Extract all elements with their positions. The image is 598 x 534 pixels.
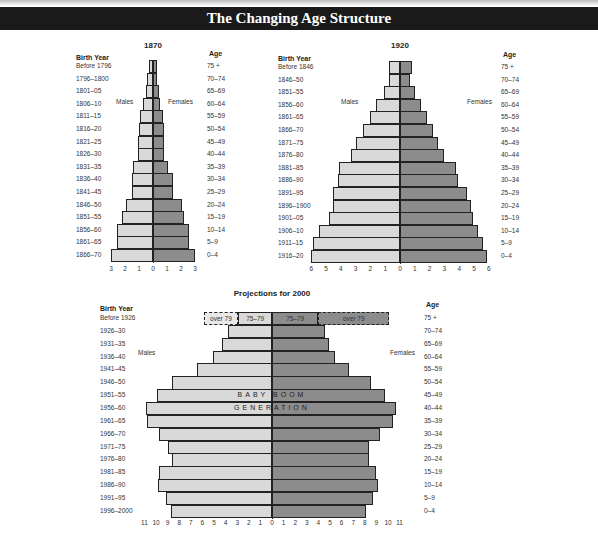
males-label: Males [116,98,133,105]
page-title: The Changing Age Structure [0,7,598,30]
segment-label: over 79 [318,315,389,322]
bar-female [400,237,483,250]
birth-year-label: Before 1926 [100,314,135,321]
bar-male [132,173,153,186]
birth-year-label: 1871–75 [278,139,303,146]
age-label: 15–19 [501,214,519,221]
bar-male [117,224,153,237]
birth-year-label: 1986–90 [100,481,125,488]
bar-female [272,505,366,518]
birth-year-label: 1861–65 [76,238,101,245]
birth-year-label: 1951–55 [100,391,125,398]
x-tick-label: 1 [379,265,391,272]
bar-female [400,74,410,87]
bar-female [400,200,471,213]
x-tick-label: 1 [133,265,145,272]
age-label: 25–29 [501,189,519,196]
age-label: 5–9 [207,238,218,245]
x-tick-label: 10 [382,519,394,526]
age-label: 5–9 [424,494,435,501]
center-axis [272,312,273,519]
x-tick-label: 2 [243,519,255,526]
age-label: 30–34 [207,175,225,182]
age-label: 50–54 [501,126,519,133]
bar-female [272,428,380,441]
bar-female [272,325,325,338]
birth-year-label: 1806–10 [76,100,101,107]
x-tick-label: 1 [409,265,421,272]
age-label: 5–9 [501,239,512,246]
birth-year-label: 1841–45 [76,188,101,195]
x-tick-label: 3 [105,265,117,272]
birth-year-label: 1991–95 [100,494,125,501]
birth-year-label: 1946–50 [100,378,125,385]
age-label: 30–34 [501,176,519,183]
x-tick-label: 2 [119,265,131,272]
age-header: Age [503,51,516,58]
segment-label: 75–79 [272,315,318,322]
bar-male [370,111,400,124]
x-tick-label: 2 [424,265,436,272]
age-header: Age [426,301,439,308]
age-label: 40–44 [501,151,519,158]
bar-female [400,149,444,162]
bar-male [338,174,400,187]
bar-male [140,110,153,123]
bar-female [153,85,159,98]
age-label: 45–49 [501,139,519,146]
birth-year-label: 1811–15 [76,112,101,119]
age-label: 55–59 [501,113,519,120]
age-label: 0–4 [424,507,435,514]
bar-male [389,74,400,87]
birth-year-header: Birth Year [76,54,109,61]
birth-year-label: 1876–80 [278,151,303,158]
chart-title: Projections for 2000 [192,289,352,298]
age-label: 0–4 [207,251,218,258]
bar-female [400,174,458,187]
birth-year-label: 1971–75 [100,443,125,450]
age-label: 75 + [207,62,220,69]
birth-year-label: 1886–90 [278,176,303,183]
birth-year-label: 1966–70 [100,430,125,437]
center-axis [153,60,154,263]
bar-male [319,225,400,238]
x-tick-label: 3 [231,519,243,526]
bar-female [153,224,189,237]
bar-male [172,376,272,389]
birth-year-label: 1936–40 [100,353,125,360]
bar-female [400,212,473,225]
x-tick-label: 6 [336,519,348,526]
bar-male [126,199,153,212]
bar-male [389,61,400,74]
bar-male [228,325,272,338]
age-label: 75 + [424,314,437,321]
bar-female [400,187,467,200]
bar-female [400,111,427,124]
chart-title: 1920 [320,41,480,50]
bar-male [197,363,272,376]
age-label: 15–19 [424,468,442,475]
x-tick-label: 0 [147,265,159,272]
x-tick-label: 5 [208,519,220,526]
birth-year-header: Birth Year [278,55,311,62]
bar-female [272,363,349,376]
birth-year-label: Before 1846 [278,63,313,70]
x-tick-label: 1 [161,265,173,272]
x-tick-label: 8 [173,519,185,526]
birth-year-label: 1851–55 [76,213,101,220]
age-label: 40–44 [207,150,225,157]
top-rule [0,0,598,6]
birth-year-label: 1996–2000 [100,507,133,514]
birth-year-label: 1856–60 [76,226,101,233]
bar-male [339,162,400,175]
bar-male [172,453,272,466]
birth-year-label: 1941–45 [100,365,125,372]
x-tick-label: 6 [305,265,317,272]
bar-female [153,136,164,149]
segment-label: over 79 [204,315,239,322]
x-tick-label: 5 [324,519,336,526]
bar-female [272,466,376,479]
birth-year-label: 1856–60 [278,101,303,108]
birth-year-label: 1836–40 [76,175,101,182]
x-tick-label: 4 [453,265,465,272]
